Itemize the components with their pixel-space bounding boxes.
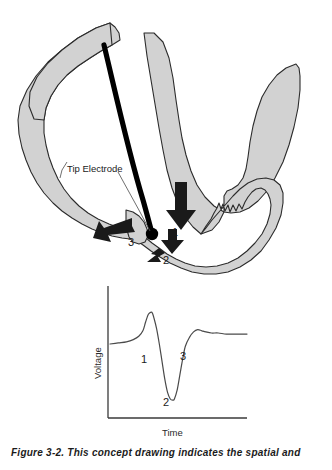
figure-3-2: Tip Electrode 1 2 3 Voltage T [0, 0, 332, 470]
wavefront-arrow-2 [161, 229, 184, 254]
tip-electrode-label: Tip Electrode [67, 163, 123, 174]
tissue-right-wall [224, 64, 300, 213]
wavefront-arrow-3-label: 3 [128, 236, 134, 248]
wavefront-arrow-2-label: 2 [163, 254, 169, 266]
wave-annotation-1: 1 [141, 353, 147, 365]
chart-ylabel: Voltage [92, 347, 103, 379]
wave-annotation-3: 3 [180, 350, 186, 362]
figure-caption: Figure 3-2. This concept drawing indicat… [11, 446, 321, 459]
electrogram-svg: Voltage Time 1 2 3 [0, 278, 332, 443]
chart-xlabel: Time [162, 427, 183, 438]
tip-electrode-dot [146, 228, 158, 240]
tissue-left-horn [29, 23, 112, 120]
wave-annotation-2: 2 [163, 396, 169, 408]
anatomy-drawing-panel: Tip Electrode 1 2 3 [0, 0, 332, 280]
catheter-lead [104, 45, 152, 233]
anatomy-svg: Tip Electrode 1 2 3 [0, 0, 332, 280]
tip-electrode-leader-upper [60, 162, 67, 178]
electrogram-chart-panel: Voltage Time 1 2 3 [0, 278, 332, 443]
figure-caption-block: Figure 3-2. This concept drawing indicat… [0, 446, 332, 459]
electrogram-trace [110, 312, 247, 400]
